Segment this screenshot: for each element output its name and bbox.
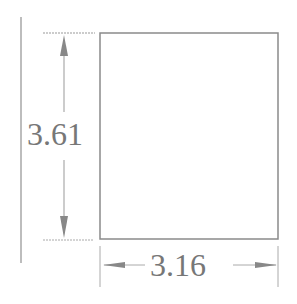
dimension-diagram: 3.61 3.16 [0,0,297,304]
arrow-right-icon [255,262,277,268]
diagram-graphics [0,0,297,304]
rectangle-shape [100,33,278,239]
height-label: 3.61 [27,118,83,150]
arrow-down-icon [60,216,68,238]
width-label: 3.16 [150,249,206,281]
arrow-left-icon [103,262,125,268]
arrow-up-icon [60,35,68,56]
